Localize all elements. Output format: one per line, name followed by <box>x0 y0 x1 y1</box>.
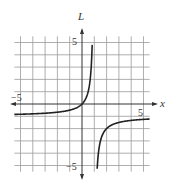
axes <box>10 28 158 180</box>
function-graph: L x −5 5 5 −5 <box>0 0 175 189</box>
curve-right-branch <box>97 119 149 169</box>
y-tick-label-pos5: 5 <box>72 36 77 47</box>
x-axis-label: x <box>159 97 165 109</box>
x-tick-label-pos5: 5 <box>138 107 143 118</box>
y-tick-label-neg5: −5 <box>66 161 77 172</box>
y-axis-down-arrow-icon <box>80 174 84 180</box>
y-axis-up-arrow-icon <box>80 28 84 34</box>
x-axis-right-arrow-icon <box>152 102 158 106</box>
y-axis-label: L <box>77 10 84 22</box>
x-tick-label-neg5: −5 <box>11 92 22 103</box>
